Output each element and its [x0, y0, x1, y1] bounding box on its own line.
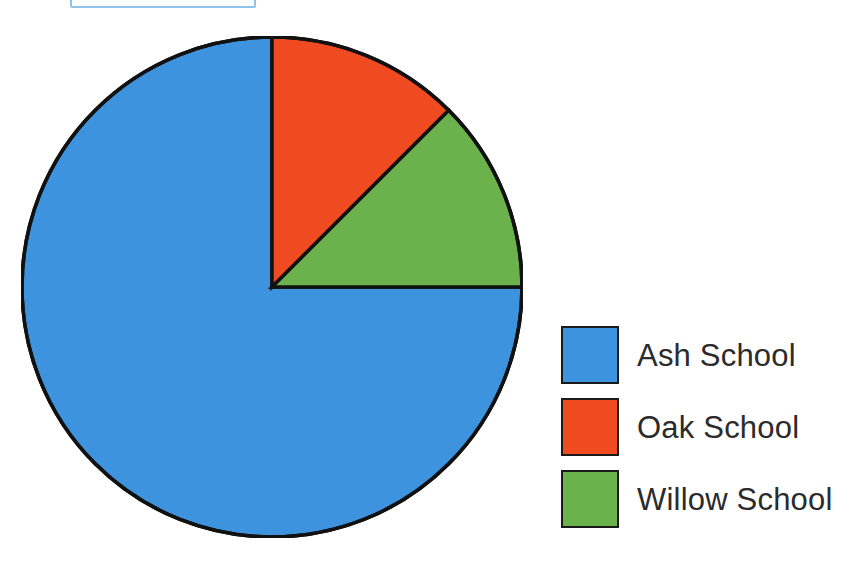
- legend-swatch-ash-school: [561, 326, 619, 384]
- legend-swatch-oak-school: [561, 398, 619, 456]
- pie-chart: [21, 36, 523, 538]
- pie-chart-svg: [21, 36, 523, 538]
- legend-item-willow-school[interactable]: Willow School: [561, 470, 846, 528]
- legend-item-oak-school[interactable]: Oak School: [561, 398, 846, 456]
- legend-item-ash-school[interactable]: Ash School: [561, 326, 846, 384]
- legend-label-ash-school: Ash School: [637, 340, 796, 371]
- chart-legend: Ash School Oak School Willow School: [561, 326, 846, 528]
- legend-label-oak-school: Oak School: [637, 412, 799, 443]
- legend-label-willow-school: Willow School: [637, 484, 833, 515]
- top-clipped-box: [70, 0, 256, 8]
- chart-canvas: Ash School Oak School Willow School: [0, 0, 852, 561]
- legend-swatch-willow-school: [561, 470, 619, 528]
